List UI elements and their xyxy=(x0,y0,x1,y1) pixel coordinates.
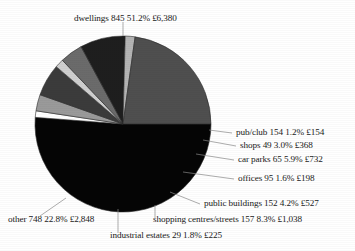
label-offices: offices 95 1.6% £198 xyxy=(238,174,314,183)
label-pub-club: pub/club 154 1.2% £154 xyxy=(236,128,324,137)
pie-chart-figure: dwellings 845 51.2% £6,380 pub/club 154 … xyxy=(0,0,355,251)
label-other: other 748 22.8% £2,848 xyxy=(8,215,94,224)
label-public-buildings: public buildings 152 4.2% £527 xyxy=(204,199,319,208)
label-shops: shops 49 3.0% £368 xyxy=(240,141,313,150)
leader-line-public-buildings xyxy=(170,192,200,204)
label-dwellings: dwellings 845 51.2% £6,380 xyxy=(74,14,177,23)
label-car-parks: car parks 65 5.9% £732 xyxy=(238,155,323,164)
pie-slice-other xyxy=(123,37,211,124)
pie-slices-group xyxy=(35,36,211,212)
leader-line-pub-club xyxy=(209,130,232,133)
label-industrial-estates: industrial estates 29 1.8% £225 xyxy=(110,231,222,240)
label-shopping-centres: shopping centres/streets 157 8.3% £1,038 xyxy=(153,215,302,224)
